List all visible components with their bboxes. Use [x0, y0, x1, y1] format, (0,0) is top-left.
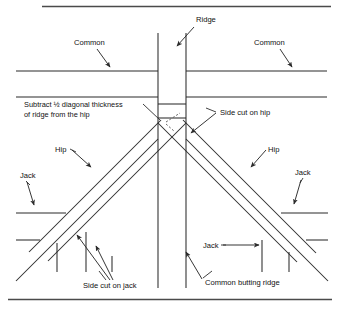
label-side-cut-on-jack: Side cut on jack — [83, 281, 137, 290]
callout-leaders — [27, 27, 301, 280]
eave-lines-right — [281, 213, 328, 240]
common-left-arrow-leader — [97, 49, 110, 67]
hip-upper-left-edge-b — [48, 123, 186, 261]
hip-right-arrow-leader — [251, 150, 266, 167]
jack-rafters-right — [262, 240, 289, 272]
half-thickness-dashed-2 — [166, 124, 174, 131]
jack-right-arrow-leader — [294, 180, 301, 204]
callout-connectors — [26, 104, 303, 280]
subtract-connector — [143, 104, 160, 120]
hip-left-arrow-leader — [72, 150, 91, 167]
side-cut-hip-connector — [206, 108, 216, 112]
hip-upper-right-edge-a — [183, 120, 316, 253]
label-common-butting-ridge: Common butting ridge — [205, 278, 280, 287]
hip-upper-left-edge-a — [29, 120, 161, 252]
label-hip-right: Hip — [268, 145, 279, 154]
label-hip-left: Hip — [55, 145, 66, 154]
label-jack-right: Jack — [295, 168, 311, 177]
label-jack-left: Jack — [20, 171, 36, 180]
diagram-canvas: Ridge Common Common Subtract ½ diagonal … — [0, 0, 340, 309]
hip-lower-left-edge-a — [16, 139, 158, 281]
ridge-board — [158, 33, 186, 288]
roof-framing-diagram: Ridge Common Common Subtract ½ diagonal … — [0, 0, 340, 309]
eave-lines-left — [16, 213, 66, 240]
common-butting-arrow-leader — [186, 252, 202, 279]
label-side-cut-on-hip: Side cut on hip — [220, 108, 270, 117]
common-right-arrow-leader — [280, 49, 292, 67]
diagram-labels: Ridge Common Common Subtract ½ diagonal … — [20, 15, 311, 290]
hip-left-connector — [70, 149, 76, 152]
label-subtract-line-2: of ridge from the hip — [24, 110, 90, 119]
side-cut-jack-arrow-leader-2 — [96, 246, 113, 280]
common-butting-connector — [203, 271, 212, 278]
common-rafter-lines — [16, 71, 327, 97]
side-cut-hip-arrow-leader — [191, 113, 216, 133]
label-common-left: Common — [74, 38, 105, 47]
label-jack-center-right: Jack — [203, 241, 219, 250]
hip-upper-right-edge-b — [158, 123, 297, 262]
half-thickness-hint — [166, 113, 180, 131]
side-cut-jack-arrow-leader-1 — [77, 235, 110, 280]
jack-left-arrow-leader — [27, 182, 34, 205]
label-subtract-line-1: Subtract ½ diagonal thickness — [24, 100, 123, 109]
label-ridge: Ridge — [196, 15, 216, 24]
label-common-right: Common — [254, 38, 285, 47]
jack-rafters-left — [57, 232, 112, 272]
